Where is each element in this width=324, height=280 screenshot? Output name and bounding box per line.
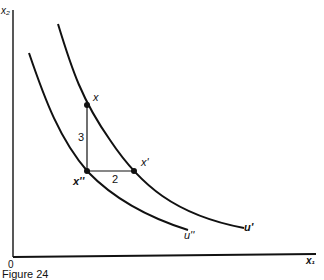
horizontal-segment-label: 2 [112, 174, 118, 185]
indifference-curve-outer [58, 24, 244, 228]
y-axis-label: x₂ [1, 6, 10, 16]
x-axis [13, 254, 316, 257]
point-x-prime [131, 168, 137, 174]
vertical-segment-label: 3 [78, 132, 84, 143]
x-axis-label: x₁ [306, 256, 315, 266]
point-x-prime-label: x' [141, 157, 149, 168]
point-x-label: x [93, 92, 99, 103]
point-x [84, 102, 90, 108]
figure-caption: Figure 24 [2, 268, 48, 280]
point-x-double-prime [84, 168, 90, 174]
curve-inner-label: u'' [184, 230, 194, 241]
point-x-double-prime-label: x'' [73, 176, 84, 187]
indifference-curve-inner [29, 53, 188, 230]
curve-outer-label: u' [244, 222, 253, 233]
